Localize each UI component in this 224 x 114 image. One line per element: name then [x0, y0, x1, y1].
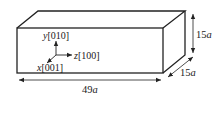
- axis-triad: [47, 41, 72, 63]
- x-axis-label: x[001]: [36, 62, 63, 73]
- prism-diagram: y[010] z[100] x[001] 49a 15a 15a: [0, 0, 224, 114]
- length-label: 49a: [82, 84, 98, 95]
- height-label: 15a: [196, 29, 212, 40]
- depth-label: 15a: [180, 67, 196, 78]
- z-axis-label: z[100]: [73, 50, 100, 61]
- y-axis-label: y[010]: [42, 30, 69, 41]
- top-face-edges: [17, 11, 185, 28]
